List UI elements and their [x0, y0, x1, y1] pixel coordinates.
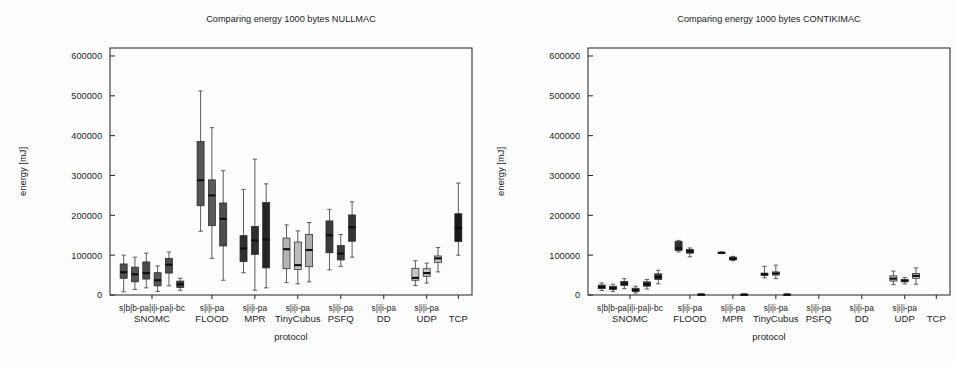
boxplot-box	[120, 255, 127, 292]
boxplot-box	[632, 286, 639, 293]
box-rect	[220, 203, 227, 246]
boxplot-box	[197, 91, 204, 231]
box-rect	[263, 203, 270, 268]
boxplot-box	[423, 263, 430, 283]
x-group-label: FLOOD	[195, 313, 228, 324]
y-tick-label: 300000	[549, 171, 580, 181]
boxplot-box	[294, 231, 301, 284]
x-variant-label: s|i|i-pa	[286, 303, 311, 313]
x-variant-label: s|i|i-pa	[329, 303, 354, 313]
boxplot-box	[131, 257, 138, 289]
boxplot-box	[643, 279, 650, 289]
boxplot-box	[263, 184, 270, 288]
x-group-label: DD	[855, 313, 869, 324]
boxplot-box	[165, 252, 172, 286]
boxplot-box	[621, 279, 628, 289]
y-tick-label: 0	[97, 290, 102, 300]
boxplot-box	[177, 278, 184, 290]
x-axis-label: protocol	[274, 331, 307, 342]
x-group-label: SNOMC	[612, 313, 648, 324]
boxplot-nullmac: Comparing energy 1000 bytes NULLMACenerg…	[0, 0, 477, 366]
x-group-label: PSFQ	[806, 313, 832, 324]
y-tick-label: 400000	[549, 131, 580, 141]
y-tick-label: 200000	[71, 211, 102, 221]
y-axis-label: energy [mJ]	[495, 147, 506, 196]
x-variant-label: s|b|b-pa|i|i-pa|i-bc	[119, 303, 185, 313]
x-group-label: TCP	[449, 313, 468, 324]
x-variant-label: s|b|b-pa|i|i-pa|i-bc	[597, 303, 663, 313]
y-tick-label: 600000	[549, 51, 580, 61]
plot-frame	[588, 48, 950, 295]
boxplot-box	[913, 268, 920, 284]
boxplot-box	[901, 277, 908, 283]
x-variant-label: s|i|i-pa	[372, 303, 397, 313]
y-tick-label: 600000	[71, 51, 102, 61]
x-variant-label: s|i|i-pa	[243, 303, 268, 313]
x-group-label: MPR	[722, 313, 743, 324]
boxplot-box	[208, 128, 215, 259]
x-variant-label: s|i|i-pa	[807, 303, 832, 313]
y-tick-label: 300000	[71, 171, 102, 181]
box-rect	[326, 221, 333, 253]
x-group-label: DD	[377, 313, 391, 324]
boxplot-box	[598, 283, 605, 291]
box-rect	[120, 264, 127, 278]
chart-panel-contikimac: Comparing energy 1000 bytes CONTIKIMACen…	[478, 0, 955, 366]
box-rect	[283, 238, 290, 269]
boxplot-box	[655, 270, 662, 284]
box-rect	[197, 142, 204, 206]
x-group-label: FLOOD	[673, 313, 706, 324]
x-group-label: PSFQ	[328, 313, 354, 324]
boxplot-box	[143, 253, 150, 288]
boxplot-box	[283, 225, 290, 283]
y-tick-label: 100000	[71, 251, 102, 261]
x-variant-label: s|i|i-pa	[415, 303, 440, 313]
x-group-label: MPR	[244, 313, 265, 324]
boxplot-box	[741, 294, 748, 295]
y-tick-label: 400000	[71, 131, 102, 141]
x-axis-label: protocol	[752, 331, 785, 342]
boxplot-box	[675, 240, 682, 252]
plot-frame	[110, 48, 472, 295]
x-group-label: SNOMC	[134, 313, 170, 324]
boxplot-box	[890, 271, 897, 285]
x-variant-label: s|i|i-pa	[850, 303, 875, 313]
boxplot-box	[240, 189, 247, 272]
boxplot-box	[718, 252, 725, 254]
box-rect	[208, 180, 215, 226]
boxplot-box	[609, 284, 616, 291]
boxplot-box	[784, 294, 791, 295]
boxplot-box	[435, 248, 442, 272]
figure-container: Comparing energy 1000 bytes NULLMACenerg…	[0, 0, 955, 366]
boxplot-box	[455, 183, 462, 255]
chart-panel-nullmac: Comparing energy 1000 bytes NULLMACenerg…	[0, 0, 477, 366]
boxplot-box	[412, 261, 419, 286]
boxplot-box	[729, 256, 736, 260]
boxplot-box	[154, 266, 161, 291]
y-tick-label: 200000	[549, 211, 580, 221]
boxplot-box	[251, 159, 258, 290]
x-variant-label: s|i|i-pa	[721, 303, 746, 313]
y-tick-label: 500000	[71, 91, 102, 101]
x-variant-label: s|i|i-pa	[200, 303, 225, 313]
y-axis-label: energy [mJ]	[17, 147, 28, 196]
y-tick-label: 100000	[549, 251, 580, 261]
boxplot-contikimac: Comparing energy 1000 bytes CONTIKIMACen…	[478, 0, 955, 366]
boxplot-box	[686, 248, 693, 257]
boxplot-box	[306, 222, 313, 281]
x-variant-label: s|i|i-pa	[764, 303, 789, 313]
boxplot-box	[761, 266, 768, 278]
boxplot-box	[349, 202, 356, 257]
x-group-label: TinyCubus	[275, 313, 321, 324]
boxplot-box	[326, 209, 333, 270]
boxplot-box	[698, 294, 705, 295]
boxplot-box	[772, 265, 779, 279]
x-group-label: UDP	[417, 313, 437, 324]
y-tick-label: 0	[575, 290, 580, 300]
box-rect	[143, 262, 150, 279]
chart-title: Comparing energy 1000 bytes CONTIKIMAC	[677, 14, 861, 24]
boxplot-box	[337, 234, 344, 266]
chart-title: Comparing energy 1000 bytes NULLMAC	[206, 14, 376, 24]
boxplot-box	[220, 171, 227, 281]
y-tick-label: 500000	[549, 91, 580, 101]
